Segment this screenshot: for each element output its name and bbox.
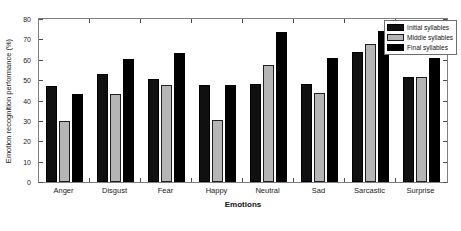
bar-disgust-initial (97, 74, 108, 182)
y-axis-tick-label: 50 (5, 77, 31, 84)
x-axis-tick-mark (395, 178, 396, 182)
y-axis-tick-mark (39, 101, 43, 102)
y-axis-tick-mark (443, 182, 447, 183)
y-axis-tick-mark (443, 141, 447, 142)
legend-item-initial: Initial syllables (387, 23, 453, 32)
bar-sad-initial (301, 84, 312, 182)
y-axis-tick-mark (39, 141, 43, 142)
figure: Emotion recognition performance (%) 0102… (0, 0, 461, 231)
bar-sarcastic-initial (352, 52, 363, 182)
x-axis-tick-mark (344, 178, 345, 182)
x-axis-tick-mark (293, 178, 294, 182)
legend-swatch-final-icon (387, 44, 404, 51)
bar-fear-final (174, 53, 185, 182)
bar-neutral-initial (250, 84, 261, 182)
x-axis-tick-mark (140, 178, 141, 182)
legend-item-middle: Middle syllables (387, 33, 453, 42)
legend-swatch-initial-icon (387, 24, 404, 31)
bar-fear-middle (161, 85, 172, 182)
x-axis-category-label: Sad (312, 186, 325, 195)
bar-happy-final (225, 85, 236, 182)
bar-surprise-middle (416, 77, 427, 182)
y-axis-tick-mark (39, 182, 43, 183)
y-axis-tick-label: 10 (5, 158, 31, 165)
bar-anger-middle (59, 121, 70, 182)
legend-label-initial: Initial syllables (407, 24, 449, 32)
y-axis-tick-mark (443, 162, 447, 163)
x-axis-category-label: Sarcastic (354, 186, 385, 195)
bar-disgust-final (123, 59, 134, 182)
y-axis-tick-label: 70 (5, 36, 31, 43)
bar-neutral-middle (263, 65, 274, 182)
x-axis-category-label: Anger (53, 186, 73, 195)
bar-anger-initial (46, 86, 57, 182)
y-axis-tick-label: 30 (5, 117, 31, 124)
y-axis-tick-label: 60 (5, 56, 31, 63)
x-axis-category-label: Disgust (102, 186, 127, 195)
y-axis-tick-label: 0 (5, 179, 31, 186)
y-axis-tick-label: 80 (5, 16, 31, 23)
y-axis-tick-label: 40 (5, 97, 31, 104)
legend-label-final: Final syllables (407, 44, 448, 52)
bar-surprise-final (429, 58, 440, 182)
x-axis-tick-mark (242, 178, 243, 182)
legend-swatch-middle-icon (387, 34, 404, 41)
x-axis-label: Emotions (38, 200, 448, 209)
x-axis-tick-mark (140, 19, 141, 23)
x-axis-tick-mark (89, 19, 90, 23)
bar-anger-final (72, 94, 83, 182)
y-axis-tick-mark (39, 39, 43, 40)
legend: Initial syllables Middle syllables Final… (384, 20, 457, 55)
x-axis-category-label: Happy (206, 186, 228, 195)
bar-happy-middle (212, 120, 223, 182)
x-axis-tick-mark (242, 19, 243, 23)
x-axis-tick-mark (191, 19, 192, 23)
y-axis-tick-label: 20 (5, 138, 31, 145)
y-axis-tick-mark (443, 80, 447, 81)
bar-disgust-middle (110, 94, 121, 182)
y-axis-tick-mark (39, 121, 43, 122)
y-axis-tick-mark (39, 19, 43, 20)
y-axis-tick-mark (443, 121, 447, 122)
bar-sarcastic-middle (365, 44, 376, 182)
x-axis-tick-mark (344, 19, 345, 23)
y-axis-tick-mark (39, 60, 43, 61)
bar-sad-final (327, 58, 338, 182)
y-axis-tick-mark (39, 162, 43, 163)
y-axis-tick-mark (443, 101, 447, 102)
bar-neutral-final (276, 32, 287, 182)
y-axis-tick-mark (443, 60, 447, 61)
legend-item-final: Final syllables (387, 43, 453, 52)
x-axis-tick-mark (293, 19, 294, 23)
x-axis-tick-mark (191, 178, 192, 182)
x-axis-category-label: Neutral (255, 186, 279, 195)
x-axis-category-label: Surprise (407, 186, 435, 195)
x-axis-category-label: Fear (158, 186, 173, 195)
bar-happy-initial (199, 85, 210, 182)
legend-label-middle: Middle syllables (407, 34, 453, 42)
x-axis-tick-mark (89, 178, 90, 182)
y-axis-tick-mark (39, 80, 43, 81)
bar-fear-initial (148, 79, 159, 182)
bar-surprise-initial (403, 77, 414, 182)
bar-sad-middle (314, 93, 325, 182)
